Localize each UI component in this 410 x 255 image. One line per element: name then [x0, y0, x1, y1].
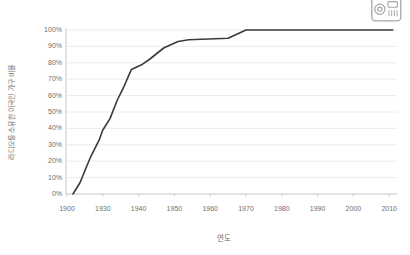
x-tick-label: 1900: [52, 204, 82, 213]
x-tick-label: 1970: [231, 204, 261, 213]
y-tick-label: 0%: [52, 190, 62, 198]
x-tick-label: 1990: [303, 204, 333, 213]
x-tick-label: 1930: [88, 204, 118, 213]
y-tick-label: 40%: [48, 124, 62, 132]
y-tick-label: 10%: [48, 174, 62, 182]
y-tick-label: 80%: [48, 59, 62, 67]
x-axis-title: 연도: [217, 232, 231, 243]
x-tick-label: 1940: [124, 204, 154, 213]
y-tick-label: 70%: [48, 75, 62, 83]
x-tick-label: 1950: [159, 204, 189, 213]
y-tick-label: 90%: [48, 42, 62, 50]
radio-icon: [371, 0, 402, 22]
y-tick-label: 100%: [44, 26, 62, 34]
radio-icon-body: [372, 0, 401, 21]
x-tick-label: 1980: [267, 204, 297, 213]
x-tick-label: 2000: [338, 204, 368, 213]
y-tick-label: 30%: [48, 141, 62, 149]
x-tick-label: 2010: [374, 204, 404, 213]
y-tick-label: 50%: [48, 108, 62, 116]
chart-canvas: 라디오를 소유한 미국인 가구 비율 0%10%20%30%40%50%60%7…: [0, 0, 410, 255]
y-tick-label: 60%: [48, 92, 62, 100]
y-tick-label: 20%: [48, 157, 62, 165]
y-axis-title: 라디오를 소유한 미국인 가구 비율: [6, 64, 16, 159]
x-tick-label: 1960: [195, 204, 225, 213]
